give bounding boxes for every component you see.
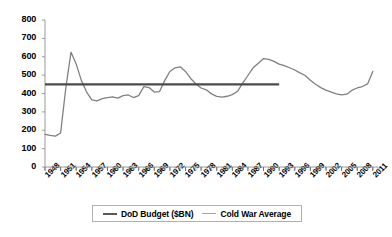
series-line-dod-budget	[45, 52, 373, 136]
legend-line-swatch-icon	[202, 213, 216, 214]
legend-label: DoD Budget ($BN)	[121, 209, 194, 219]
plot-area	[0, 0, 392, 237]
axis-ticks	[42, 20, 378, 171]
chart-container: 0100200300400500600700800 19481951195419…	[0, 0, 392, 237]
legend-entry[interactable]: DoD Budget ($BN)	[103, 209, 194, 219]
chart-legend: DoD Budget ($BN)Cold War Average	[92, 205, 302, 222]
data-series	[45, 52, 373, 136]
legend-entry[interactable]: Cold War Average	[202, 209, 291, 219]
legend-label: Cold War Average	[220, 209, 291, 219]
legend-line-swatch-icon	[103, 213, 117, 215]
